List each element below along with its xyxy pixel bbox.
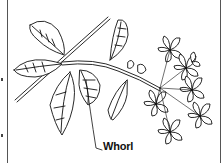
- leaf: [108, 80, 127, 120]
- flower-cluster: [144, 36, 212, 144]
- plant-drawing: [0, 0, 224, 163]
- leaf: [110, 20, 128, 60]
- leaf: [79, 70, 100, 105]
- leaf: [14, 60, 62, 77]
- leaf: [50, 72, 75, 135]
- whorl-label: Whorl: [103, 140, 133, 152]
- botanical-illustration-figure: Whorl: [0, 0, 224, 163]
- leaf: [30, 21, 65, 55]
